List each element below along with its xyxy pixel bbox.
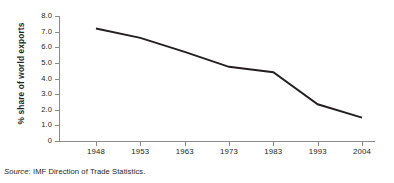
- chart-figure: % share of world exports 8.07.06.05.04.0…: [0, 0, 394, 183]
- source-note: Source: IMF Direction of Trade Statistic…: [4, 167, 145, 176]
- series-line-chart: [0, 0, 394, 183]
- source-separator: :: [29, 167, 31, 176]
- source-text: IMF Direction of Trade Statistics.: [33, 167, 145, 176]
- source-label: Source: [4, 167, 29, 176]
- series-line-path: [96, 29, 362, 118]
